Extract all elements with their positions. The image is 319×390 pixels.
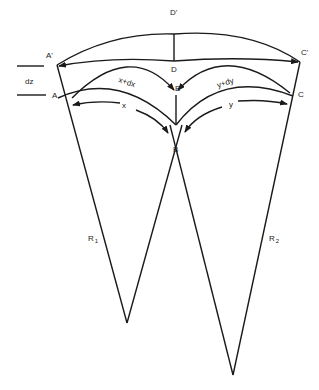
arrow-y-right	[238, 100, 287, 104]
right-cone-outer-edge	[233, 62, 300, 375]
arc-d-to-a-prime	[59, 59, 174, 66]
arc-d-prime-c-prime	[174, 33, 300, 62]
label-dz: dz	[25, 77, 33, 86]
left-cone-inner-edge	[127, 125, 182, 323]
label-b-prime: B'	[175, 84, 182, 93]
label-a: A	[52, 91, 58, 100]
curved-surface-diagram: A' A D' D B' B C' C dz x+dx y+dy x y R1 …	[0, 0, 319, 390]
label-r1: R1	[88, 234, 99, 244]
label-c: C	[298, 90, 304, 99]
arc-y-dy	[178, 66, 290, 93]
label-b: B	[173, 145, 178, 154]
label-r2: R2	[269, 234, 280, 244]
right-cone-inner-edge	[170, 125, 233, 375]
label-d-prime: D'	[170, 8, 178, 17]
label-y: y	[229, 100, 233, 109]
arrow-y-left	[185, 107, 222, 132]
arc-c-to-b	[176, 87, 293, 125]
label-x: x	[122, 101, 126, 110]
arrow-x-left	[73, 102, 120, 105]
label-d: D	[171, 65, 177, 74]
label-c-prime: C'	[301, 48, 309, 57]
label-a-prime: A'	[46, 51, 53, 60]
label-x-dx: x+dx	[117, 75, 136, 89]
arc-d-to-c-prime	[174, 59, 298, 62]
left-cone-outer-edge	[57, 65, 127, 323]
